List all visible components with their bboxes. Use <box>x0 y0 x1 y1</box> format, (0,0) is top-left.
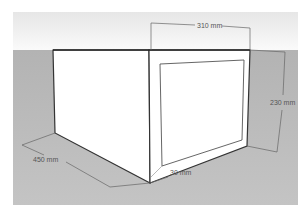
dimension-depth-label: 450 mm <box>33 156 58 163</box>
model-viewport: 310 mm 230 mm 450 mm 30 mm <box>0 0 305 215</box>
dimension-width-label: 310 mm <box>197 22 222 29</box>
dimension-frame-label: 30 mm <box>170 169 192 176</box>
sky <box>13 12 298 50</box>
dimension-height-label: 230 mm <box>270 99 295 106</box>
